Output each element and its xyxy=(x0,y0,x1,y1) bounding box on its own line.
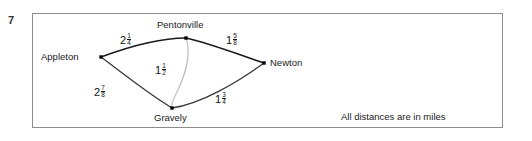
edge-label-whole: 2 xyxy=(120,35,126,46)
question-number: 7 xyxy=(8,14,14,26)
node-label-gravely: Gravely xyxy=(154,113,187,123)
fraction-numerator: 1 xyxy=(162,63,167,70)
fraction-denominator: 8 xyxy=(233,39,238,47)
fraction-numerator: 5 xyxy=(233,33,238,40)
fraction: 1 2 xyxy=(162,63,167,77)
fraction-numerator: 1 xyxy=(127,33,132,40)
figure-caption: All distances are in miles xyxy=(341,112,446,122)
edge-label-pentonville-gravely: 1 1 2 xyxy=(155,63,166,77)
edge-label-pentonville-newton: 1 5 8 xyxy=(226,33,237,47)
edge-label-whole: 1 xyxy=(215,94,221,105)
fraction-denominator: 2 xyxy=(162,69,167,77)
edge-label-appleton-pentonville: 2 1 4 xyxy=(120,33,131,47)
fraction-denominator: 8 xyxy=(101,91,106,99)
edge-label-appleton-gravely: 2 7 8 xyxy=(94,85,105,99)
edge-label-whole: 2 xyxy=(94,87,100,98)
question-figure: 7 Appleton Pentonville Gravely Newton 2 … xyxy=(0,0,532,141)
fraction: 5 8 xyxy=(233,33,238,47)
edge-label-whole: 1 xyxy=(226,35,232,46)
fraction: 1 4 xyxy=(127,33,132,47)
fraction-numerator: 3 xyxy=(222,92,227,99)
node-label-pentonville: Pentonville xyxy=(157,20,203,30)
node-label-newton: Newton xyxy=(270,58,302,68)
fraction: 7 8 xyxy=(101,85,106,99)
node-label-appleton: Appleton xyxy=(41,52,79,62)
fraction-denominator: 4 xyxy=(127,39,132,47)
fraction-denominator: 4 xyxy=(222,98,227,106)
fraction: 3 4 xyxy=(222,92,227,106)
edge-label-whole: 1 xyxy=(155,65,161,76)
fraction-numerator: 7 xyxy=(101,85,106,92)
edge-label-gravely-newton: 1 3 4 xyxy=(215,92,226,106)
